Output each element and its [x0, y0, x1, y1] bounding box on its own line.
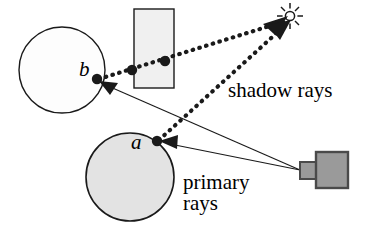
primary-ray-to-b-arrowhead: [99, 81, 118, 95]
camera-body: [316, 152, 348, 188]
primary-rays-label-line2: rays: [183, 193, 249, 214]
primary-rays-label: primary rays: [183, 172, 249, 215]
camera-icon: [300, 152, 348, 188]
point-b-dot: [92, 74, 102, 84]
point-b-label: b: [79, 57, 90, 82]
primary-ray-to-a: [170, 144, 300, 170]
point-a-label: a: [131, 130, 142, 155]
occluder-entry-dot: [127, 65, 137, 75]
upper-sphere: [19, 27, 105, 113]
shadow-ray-from-b: [99, 24, 276, 79]
primary-rays-label-line1: primary: [183, 172, 249, 193]
figure-canvas: shadow rays primary rays b a: [0, 0, 372, 226]
point-a-dot: [152, 136, 162, 146]
occluder-box: [134, 9, 174, 88]
occluder-exit-dot: [160, 56, 170, 66]
lower-sphere: [86, 133, 174, 221]
shadow-rays-label: shadow rays: [228, 80, 332, 101]
